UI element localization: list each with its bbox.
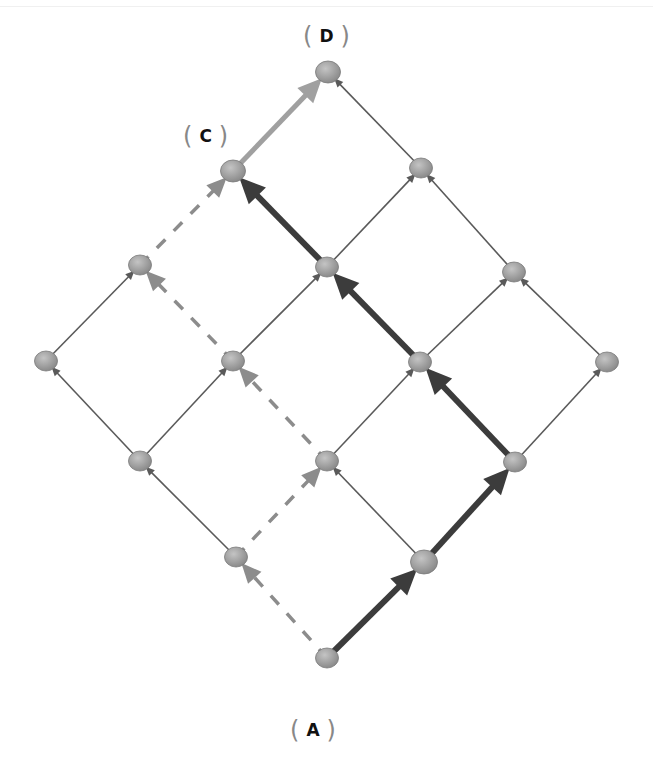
edge-line [420,282,503,362]
edge-n9-n12 [520,278,607,362]
edge-line [525,282,607,362]
edge-line [158,284,233,361]
edge-line [256,194,327,267]
edge-line [515,373,597,462]
label-text: D [312,26,340,46]
node-n5 [504,452,527,472]
edge-line [431,179,514,272]
edge-line [233,278,316,361]
edge-line [327,373,410,461]
edge-line [251,380,327,461]
edge-n8-n11 [333,273,420,362]
edge-n2-n5 [424,468,510,562]
edge-n10-C [140,177,227,265]
edge-n12-n14 [426,174,514,272]
edge-n1-n3 [146,467,236,557]
edge-n1-n4 [236,467,321,557]
edge-line [424,486,493,562]
node-A [316,648,339,668]
edge-line [327,586,400,658]
edge-line [56,372,140,461]
edge-line [253,576,327,658]
node-n8 [409,352,432,372]
edge-line [233,94,307,171]
label-D: (D) [303,22,350,50]
edge-n4-n7 [238,367,327,461]
node-n11 [316,257,339,277]
bracket-right: ) [327,716,336,744]
edge-n11-C [239,177,327,267]
node-n6 [35,351,58,371]
edge-n5-n9 [515,368,602,462]
edge-line [442,385,515,462]
edge-A-n2 [327,569,417,658]
edge-n6-n10 [46,271,134,361]
bracket-right: ) [219,122,228,150]
edge-line [236,480,309,557]
edge-n11-n14 [327,174,415,267]
edge-line [46,276,130,361]
node-n1 [225,547,248,567]
node-n10 [129,255,152,275]
edge-n7-n10 [146,271,233,361]
nodes-layer [35,61,619,668]
node-n12 [503,262,526,282]
edge-line [327,179,411,267]
edge-A-n1 [241,563,327,658]
node-D [316,61,341,83]
bracket-left: ( [303,22,312,50]
node-n7 [222,351,245,371]
label-A: (A) [290,716,336,744]
edge-n3-n6 [51,367,140,461]
edge-line [140,372,223,461]
node-n9 [596,352,619,372]
bracket-left: ( [290,716,299,744]
edge-n4-n8 [327,368,415,461]
edge-n8-n12 [420,278,508,362]
edge-n3-n7 [140,367,228,461]
node-n3 [129,451,152,471]
edge-n5-n8 [426,368,515,462]
lattice-diagram [0,0,653,771]
label-text: C [192,126,218,146]
edge-n2-n4 [333,467,424,562]
bracket-left: ( [183,122,192,150]
edge-n7-n11 [233,273,321,361]
edge-line [337,472,424,562]
edges-layer [46,78,607,658]
edge-line [151,472,236,557]
edge-line [339,83,421,168]
label-C: (C) [183,122,228,150]
edge-line [140,190,214,265]
edge-C-D [233,78,322,171]
node-n2 [411,550,438,574]
node-n14 [410,158,433,178]
label-text: A [299,720,326,740]
node-C [221,160,246,182]
bracket-right: ) [341,22,350,50]
edge-line [349,290,420,362]
edge-n14-D [334,78,421,168]
node-n4 [316,451,339,471]
